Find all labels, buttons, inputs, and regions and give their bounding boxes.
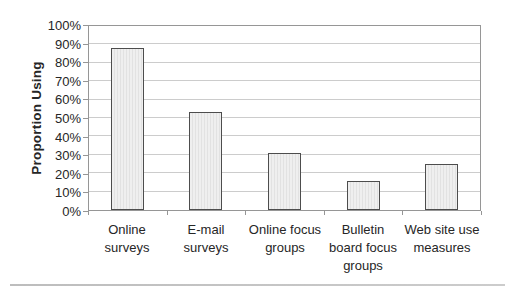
y-axis-tick: [83, 174, 88, 175]
gridline: [89, 99, 480, 100]
gridline: [89, 135, 480, 136]
gridline: [89, 117, 480, 118]
y-tick-label: 20%: [21, 166, 81, 181]
bottom-divider: [10, 284, 505, 286]
category-label: Online focus groups: [246, 221, 324, 257]
bar: [189, 112, 222, 210]
y-axis-tick: [83, 192, 88, 193]
y-axis-tick: [83, 155, 88, 156]
category-label: E-mail surveys: [167, 221, 245, 257]
y-tick-label: 90%: [21, 36, 81, 51]
y-axis-tick: [83, 62, 88, 63]
y-tick-label: 50%: [21, 111, 81, 126]
gridline: [89, 80, 480, 81]
x-axis-tick: [245, 211, 246, 215]
y-tick-label: 80%: [21, 55, 81, 70]
y-tick-label: 0%: [21, 204, 81, 219]
y-tick-label: 60%: [21, 92, 81, 107]
category-label: Online surveys: [88, 221, 166, 257]
chart-canvas: Proportion Using 0%10%20%30%40%50%60%70%…: [0, 0, 510, 294]
y-axis-tick: [83, 25, 88, 26]
gridline: [89, 62, 480, 63]
plot-area: [88, 25, 481, 211]
x-axis-tick: [481, 211, 482, 215]
gridline: [89, 43, 480, 44]
y-tick-label: 30%: [21, 148, 81, 163]
y-axis-tick: [83, 118, 88, 119]
y-axis-tick: [83, 44, 88, 45]
category-label: Bulletin board focus groups: [324, 221, 402, 275]
y-tick-label: 10%: [21, 185, 81, 200]
bar: [111, 48, 144, 210]
x-axis-tick: [402, 211, 403, 215]
y-tick-label: 100%: [21, 18, 81, 33]
x-axis-tick: [167, 211, 168, 215]
y-axis-tick: [83, 81, 88, 82]
category-label: Web site use measures: [403, 221, 481, 257]
y-tick-label: 40%: [21, 129, 81, 144]
bar: [347, 181, 380, 210]
bar: [268, 153, 301, 210]
y-tick-label: 70%: [21, 73, 81, 88]
bar: [425, 164, 458, 210]
x-axis-tick: [324, 211, 325, 215]
x-axis-tick: [88, 211, 89, 215]
y-axis-tick: [83, 137, 88, 138]
y-axis-tick: [83, 99, 88, 100]
